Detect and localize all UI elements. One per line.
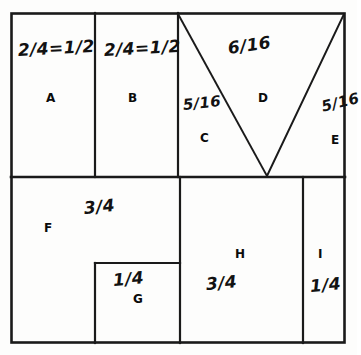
fraction-b: 2/4=1/2 [104, 38, 182, 59]
region-label-f: F [44, 222, 53, 234]
region-label-a: A [46, 92, 56, 104]
fraction-h: 3/4 [205, 273, 237, 293]
fraction-i: 1/4 [309, 275, 341, 295]
region-label-i: I [318, 248, 323, 260]
region-label-d: D [258, 92, 268, 104]
region-label-h: H [235, 248, 246, 260]
region-label-b: B [128, 92, 138, 104]
fraction-a: 2/4=1/2 [18, 38, 96, 59]
region-label-e: E [331, 134, 340, 146]
region-label-c: C [200, 132, 209, 144]
fraction-f: 3/4 [83, 197, 116, 217]
fraction-c: 5/16 [182, 94, 222, 113]
fraction-g: 1/4 [112, 269, 144, 289]
region-label-g: G [133, 293, 143, 305]
